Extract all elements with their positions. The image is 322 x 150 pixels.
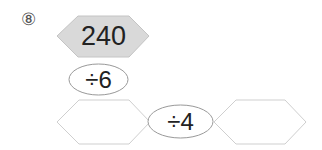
start-value: 240: [57, 16, 150, 57]
answer-box-1[interactable]: [57, 100, 150, 144]
answer-box-2[interactable]: [214, 100, 306, 144]
operation-label-2: ÷4: [148, 105, 213, 138]
operation-label-1: ÷6: [69, 64, 128, 95]
